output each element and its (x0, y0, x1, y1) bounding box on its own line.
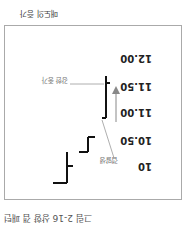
chart-figure: 그림 2-16 상향 갭 패턴 10 10.50 11.00 11.50 12.… (0, 0, 186, 230)
price-bars (0, 0, 186, 230)
